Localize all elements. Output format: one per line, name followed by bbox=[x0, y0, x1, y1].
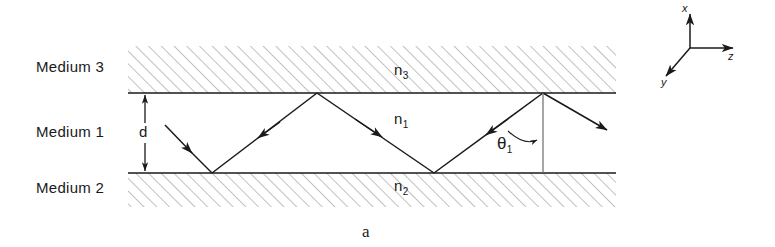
medium-2-region bbox=[128, 173, 616, 207]
axis-z-label: z bbox=[728, 50, 734, 62]
refractive-index-n1: n1 bbox=[394, 110, 409, 130]
axis-y-line bbox=[666, 48, 690, 76]
waveguide-ray-diagram bbox=[0, 0, 775, 247]
ray-path bbox=[165, 93, 607, 173]
medium-3-region bbox=[128, 46, 616, 93]
medium-1-label: Medium 1 bbox=[36, 123, 104, 140]
axis-x-label: x bbox=[682, 2, 688, 14]
ray-arrow-3 bbox=[486, 119, 508, 135]
thickness-label: d bbox=[139, 123, 148, 140]
exit-ray bbox=[543, 93, 607, 130]
medium-3-label: Medium 3 bbox=[36, 58, 104, 75]
coordinate-axes bbox=[666, 14, 733, 76]
incidence-angle-label: θ1 bbox=[497, 134, 513, 155]
ray-arrow-1 bbox=[258, 122, 280, 138]
refractive-index-n2: n2 bbox=[394, 177, 409, 197]
medium-2-label: Medium 2 bbox=[36, 179, 104, 196]
ray-arrow-2 bbox=[355, 119, 382, 137]
refractive-index-n3: n3 bbox=[394, 61, 409, 81]
incident-ray bbox=[165, 125, 192, 153]
figure-caption: a bbox=[362, 222, 370, 242]
axis-y-label: y bbox=[661, 76, 667, 88]
incident-ray-tail bbox=[190, 151, 212, 173]
